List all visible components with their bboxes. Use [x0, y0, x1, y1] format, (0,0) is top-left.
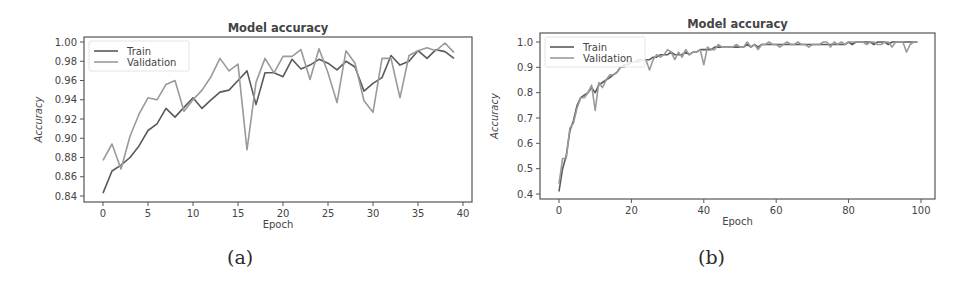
legend-label-validation: Validation [127, 57, 176, 68]
y-tick-label: 0.7 [517, 113, 533, 124]
y-tick-label: 0.5 [517, 163, 533, 174]
legend: TrainValidation [89, 41, 189, 71]
y-tick-label: 0.6 [517, 138, 533, 149]
x-tick-label: 20 [625, 205, 638, 216]
y-tick-label: 0.8 [517, 87, 533, 98]
y-tick-label: 0.86 [55, 171, 77, 182]
x-tick-label: 25 [322, 208, 335, 219]
x-tick-label: 40 [697, 205, 710, 216]
y-tick-label: 0.84 [55, 191, 77, 202]
plot-area: Model accuracy0.40.50.60.70.80.91.002040… [489, 17, 935, 227]
y-tick-label: 0.9 [517, 62, 533, 73]
x-tick-label: 5 [145, 208, 151, 219]
x-axis-label: Epoch [263, 219, 294, 230]
x-tick-label: 35 [412, 208, 425, 219]
x-axis-label: Epoch [722, 216, 753, 227]
figure-panel-b: Model accuracy0.40.50.60.70.80.91.002040… [480, 0, 961, 287]
y-axis-label: Accuracy [489, 92, 500, 140]
y-tick-label: 0.96 [55, 75, 77, 86]
y-axis-label: Accuracy [33, 96, 44, 144]
x-tick-label: 0 [556, 205, 562, 216]
x-tick-label: 0 [100, 208, 106, 219]
x-tick-label: 20 [277, 208, 290, 219]
y-tick-label: 1.00 [55, 37, 77, 48]
figure-panel-a: Model accuracy0.840.860.880.900.920.940.… [0, 0, 480, 287]
x-tick-label: 30 [367, 208, 380, 219]
legend-label-validation: Validation [583, 53, 632, 64]
x-tick-label: 80 [842, 205, 855, 216]
x-tick-label: 100 [911, 205, 930, 216]
plot-area: Model accuracy0.840.860.880.900.920.940.… [33, 21, 472, 230]
legend: TrainValidation [545, 37, 645, 67]
chart-title: Model accuracy [687, 17, 788, 31]
x-tick-label: 40 [457, 208, 470, 219]
y-tick-label: 0.4 [517, 189, 533, 200]
caption-b: (b) [698, 246, 725, 268]
legend-label-train: Train [126, 46, 151, 57]
y-tick-label: 0.88 [55, 152, 77, 163]
y-tick-label: 0.92 [55, 114, 77, 125]
y-tick-label: 1.0 [517, 37, 533, 48]
accuracy-chart-a: Model accuracy0.840.860.880.900.920.940.… [0, 0, 480, 240]
x-tick-label: 15 [232, 208, 245, 219]
y-tick-label: 0.98 [55, 56, 77, 67]
x-tick-label: 10 [187, 208, 200, 219]
accuracy-chart-b: Model accuracy0.40.50.60.70.80.91.002040… [480, 0, 961, 240]
y-tick-label: 0.90 [55, 133, 77, 144]
y-tick-label: 0.94 [55, 94, 77, 105]
legend-label-train: Train [582, 42, 607, 53]
caption-a: (a) [227, 246, 253, 268]
x-tick-label: 60 [770, 205, 783, 216]
chart-title: Model accuracy [228, 21, 329, 35]
